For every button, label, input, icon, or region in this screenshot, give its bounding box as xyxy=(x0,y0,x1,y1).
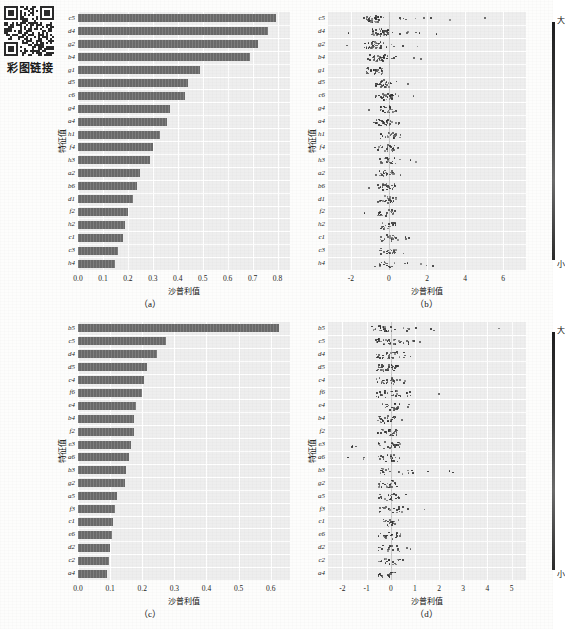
x-axis-tick-label: 0.2 xyxy=(114,274,142,283)
gridline-vertical xyxy=(487,322,488,580)
x-axis-tick-label: 0.1 xyxy=(96,584,124,593)
data-point xyxy=(395,249,397,251)
y-axis-tick-label: b6 xyxy=(318,183,325,190)
data-point xyxy=(375,122,377,124)
data-point xyxy=(394,157,396,159)
data-point xyxy=(382,394,384,396)
data-point xyxy=(382,32,384,34)
data-point xyxy=(392,148,394,150)
data-point xyxy=(386,352,388,354)
data-point xyxy=(388,468,390,470)
data-point xyxy=(388,494,390,496)
data-point xyxy=(394,185,396,187)
gridline-vertical xyxy=(465,12,466,270)
data-point xyxy=(381,215,383,217)
data-point xyxy=(398,471,400,473)
data-point xyxy=(368,187,370,189)
data-point xyxy=(377,420,379,422)
y-axis-tick-label: e6 xyxy=(68,531,75,538)
data-point xyxy=(389,430,391,432)
colorbar-high-label: 大 xyxy=(557,14,565,25)
x-axis-tick-label: 0.6 xyxy=(214,274,242,283)
data-point xyxy=(367,67,369,69)
data-point xyxy=(380,86,382,88)
y-axis-tick-label: f4 xyxy=(320,144,325,151)
data-point xyxy=(380,248,382,250)
y-axis-tick-label: c3 xyxy=(318,247,325,254)
data-point xyxy=(392,197,394,199)
data-point xyxy=(382,545,384,547)
gridline-horizontal xyxy=(328,567,526,568)
data-point xyxy=(385,461,387,463)
data-point xyxy=(377,381,379,383)
data-point xyxy=(376,60,378,62)
data-point xyxy=(392,32,394,34)
data-point xyxy=(395,457,397,459)
gridline-vertical xyxy=(427,12,428,270)
data-point xyxy=(377,432,379,434)
data-point xyxy=(398,506,400,508)
data-point xyxy=(369,54,371,56)
data-point xyxy=(364,212,366,214)
data-point xyxy=(391,250,393,252)
data-point xyxy=(385,225,387,227)
gridline-vertical xyxy=(463,322,464,580)
data-point xyxy=(391,377,393,379)
data-point xyxy=(379,266,381,268)
data-point xyxy=(391,237,393,239)
data-point xyxy=(399,159,401,161)
y-axis-tick-label: a2 xyxy=(318,170,325,177)
data-point xyxy=(380,327,382,329)
panel-caption-a: （a） xyxy=(0,297,300,310)
data-point xyxy=(404,380,406,382)
data-point xyxy=(371,326,373,328)
data-point xyxy=(380,236,382,238)
data-point xyxy=(387,144,389,146)
data-point xyxy=(395,198,397,200)
y-axis-tick-label: b4 xyxy=(68,415,75,422)
y-axis-tick-label: b4 xyxy=(318,54,325,61)
data-point xyxy=(391,391,393,393)
data-point xyxy=(410,356,412,358)
data-point xyxy=(381,97,383,99)
data-point xyxy=(387,202,389,204)
bar xyxy=(78,402,136,410)
data-point xyxy=(391,524,393,526)
panel-caption-b: （b） xyxy=(300,297,553,310)
data-point xyxy=(409,391,411,393)
data-point xyxy=(383,536,385,538)
data-point xyxy=(417,46,419,48)
bar xyxy=(78,247,118,255)
x-axis-tick-label: 0.8 xyxy=(264,274,292,283)
data-point xyxy=(379,377,381,379)
gridline-vertical xyxy=(153,12,154,270)
data-point xyxy=(384,86,386,88)
bar xyxy=(78,260,115,268)
x-axis-tick-label: 0.6 xyxy=(257,584,285,593)
data-point xyxy=(387,358,389,360)
data-point xyxy=(381,262,383,264)
data-point xyxy=(394,367,396,369)
gridline-vertical xyxy=(142,322,143,580)
y-axis-tick-label: c5 xyxy=(318,15,325,22)
bar xyxy=(78,337,166,345)
data-point xyxy=(393,149,395,151)
data-point xyxy=(376,119,378,121)
data-point xyxy=(389,174,391,176)
data-point xyxy=(386,561,388,563)
x-axis-tick-label: 0.0 xyxy=(64,274,92,283)
colorbar-low-label: 小 xyxy=(557,568,565,579)
bar xyxy=(78,518,113,526)
data-point xyxy=(449,19,451,21)
data-point xyxy=(408,237,410,239)
y-axis-tick-label: f2 xyxy=(70,208,75,215)
data-point xyxy=(382,471,384,473)
data-point xyxy=(377,55,379,57)
bar xyxy=(78,169,140,177)
data-point xyxy=(415,18,417,20)
data-point xyxy=(406,330,408,332)
data-point xyxy=(388,366,390,368)
data-point xyxy=(390,352,392,354)
data-point xyxy=(376,392,378,394)
data-point xyxy=(391,58,393,60)
